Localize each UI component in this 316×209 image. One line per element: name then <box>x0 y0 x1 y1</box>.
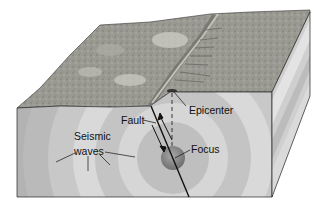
earthquake-diagram: Epicenter Fault Focus Seismic waves <box>0 0 316 209</box>
label-focus: Focus <box>191 143 220 155</box>
label-seismic: Seismic <box>74 130 111 142</box>
label-fault: Fault <box>121 114 144 126</box>
label-epicenter: Epicenter <box>189 104 234 116</box>
label-waves: waves <box>73 145 104 157</box>
